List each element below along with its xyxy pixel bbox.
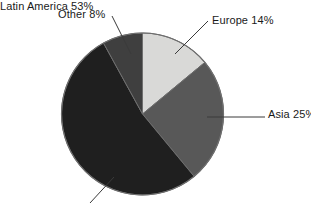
pie-chart-figure: Other 8% Europe 14% Asia 25% Latin Ameri…	[0, 0, 311, 220]
pie-slices	[61, 33, 223, 195]
slice-label-asia: Asia 25%	[268, 108, 311, 121]
slice-label-latin-america: Latin America 53%	[0, 0, 93, 13]
slice-label-europe: Europe 14%	[212, 14, 274, 27]
pie-chart-canvas	[0, 0, 311, 220]
